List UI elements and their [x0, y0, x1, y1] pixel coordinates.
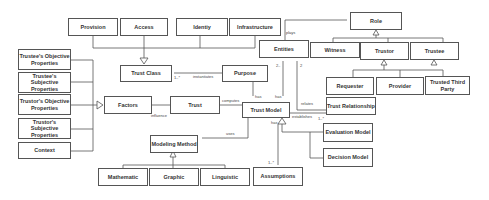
- box-role: Role: [350, 12, 402, 30]
- box-access: Access: [120, 18, 168, 36]
- label-mult-relationship: 1..*: [318, 116, 324, 121]
- label-computes: computes: [222, 98, 239, 103]
- label-mult-entities-2: 2: [300, 63, 302, 68]
- box-evaluation-model: Evaluation Model: [323, 123, 373, 142]
- box-witness: Witness: [310, 42, 360, 58]
- label-relates: relates: [301, 101, 313, 106]
- box-decision-model: Decision Model: [323, 148, 373, 167]
- box-graphic: Graphic: [149, 168, 199, 186]
- box-trusted-third-party: Trusted Third Party: [425, 76, 470, 95]
- box-purpose: Purpose: [222, 65, 268, 82]
- box-provider: Provider: [376, 77, 424, 95]
- box-trust: Trust: [170, 96, 220, 114]
- label-establishes: establishes: [292, 114, 312, 119]
- label-influences: influence: [151, 113, 167, 118]
- label-mult-entities-1: 2..: [276, 63, 280, 68]
- label-mult-trust-class: 1..*: [174, 75, 180, 80]
- box-modeling-method: Modeling Method: [150, 135, 198, 153]
- box-trust-class: Trust Class: [120, 65, 172, 82]
- box-assumptions: Assumptions: [253, 167, 303, 186]
- box-trustors-subjective-properties: Trustor's Subjective Properties: [18, 118, 71, 139]
- box-provision: Provision: [68, 18, 118, 36]
- box-mathematic: Mathematic: [98, 168, 148, 186]
- box-identity: Identiy: [176, 18, 228, 36]
- box-requester: Requester: [326, 77, 374, 95]
- box-trust-relationship: Trust Relationship: [326, 97, 376, 115]
- label-has-assumptions: has: [271, 120, 277, 125]
- box-trustor: Trustor: [360, 42, 409, 60]
- box-trustees-subjective-properties: Trustee's Subjective Properties: [18, 72, 71, 93]
- box-infrastructure: Infrastructure: [229, 18, 281, 36]
- box-trust-model: Trust Model: [242, 102, 290, 118]
- label-plays: plays: [286, 30, 295, 35]
- label-has-purpose: has: [255, 94, 261, 99]
- label-instantiates: instantiates: [193, 74, 213, 79]
- box-linguistic: Linguistic: [200, 168, 250, 186]
- label-has-entities: has: [275, 94, 281, 99]
- box-context: Context: [18, 142, 71, 159]
- label-uses: uses: [226, 131, 234, 136]
- box-entities: Entities: [259, 40, 309, 58]
- label-mult-assumptions: 1..*: [268, 160, 274, 165]
- box-trustee: Trustee: [410, 42, 459, 60]
- box-trustors-objective-properties: Trustor's Objective Properties: [18, 94, 71, 115]
- box-trustees-objective-properties: Trustee's Objective Properties: [18, 49, 71, 70]
- trust-class-diagram: Provision Access Identiy Infrastructure …: [0, 0, 489, 200]
- box-factors: Factors: [104, 96, 152, 114]
